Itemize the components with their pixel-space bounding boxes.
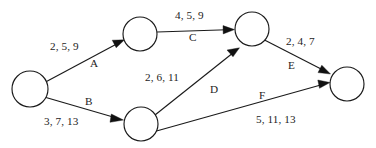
edge-b-weights-label: 3, 7, 13	[44, 116, 78, 127]
edge-a-name-label: A	[90, 58, 98, 69]
edge-d-line	[155, 53, 234, 116]
edge-a-arrowhead	[112, 40, 124, 48]
node-n1[interactable]	[12, 71, 48, 107]
edge-c-arrowhead	[223, 26, 235, 34]
edge-f-line	[157, 85, 323, 132]
edge-f-arrowhead	[318, 80, 330, 88]
edge-f	[157, 80, 331, 131]
edge-a-weights-label: 2, 5, 9	[50, 41, 79, 52]
edge-c-weights-label: 4, 5, 9	[175, 10, 204, 21]
edge-d-name-label: D	[210, 84, 218, 95]
node-n3[interactable]	[235, 12, 269, 46]
edge-e-weights-label: 2, 4, 7	[286, 36, 315, 47]
edge-c-name-label: C	[189, 32, 197, 43]
edge-e-name-label: E	[288, 60, 295, 71]
node-n2[interactable]	[123, 17, 157, 51]
edge-d-weights-label: 2, 6, 11	[145, 72, 179, 83]
edge-e-arrowhead	[318, 65, 331, 74]
edge-f-weights-label: 5, 11, 13	[256, 114, 296, 125]
network-diagram: 2, 5, 9 A B 3, 7, 13 4, 5, 9 C 2, 6, 11 …	[0, 0, 376, 148]
node-n4[interactable]	[124, 107, 158, 141]
edge-f-name-label: F	[259, 90, 265, 101]
edge-b-arrowhead	[110, 114, 124, 122]
edge-b-name-label: B	[85, 96, 93, 107]
node-n5[interactable]	[330, 67, 364, 101]
